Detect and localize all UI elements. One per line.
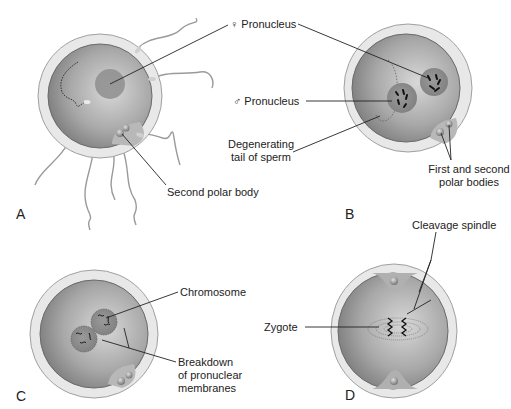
label-female-pronucleus: ♀ Pronucleus xyxy=(230,18,296,31)
panel-d-zygote xyxy=(305,232,457,398)
label-second-polar-body: Second polar body xyxy=(167,186,259,199)
panel-c-oocyte xyxy=(30,270,178,398)
panel-letter-d: D xyxy=(345,387,355,403)
female-pronucleus xyxy=(420,68,448,96)
label-chromosome: Chromosome xyxy=(180,286,246,299)
fertilization-diagram xyxy=(0,0,511,409)
panel-letter-c: C xyxy=(16,388,26,404)
label-degenerating-tail: Degenerating tail of sperm xyxy=(226,138,296,164)
label-cleavage-spindle: Cleavage spindle xyxy=(412,219,496,232)
panel-letter-b: B xyxy=(345,206,354,222)
panel-letter-a: A xyxy=(16,206,25,222)
label-breakdown-pronuclear: Breakdown of pronuclear membranes xyxy=(178,356,242,395)
label-male-pronucleus: ♂ Pronucleus xyxy=(233,95,299,108)
label-zygote: Zygote xyxy=(264,321,298,334)
panel-b-oocyte xyxy=(293,24,472,160)
male-pronucleus xyxy=(387,83,417,113)
label-polar-bodies: First and second polar bodies xyxy=(424,163,511,189)
